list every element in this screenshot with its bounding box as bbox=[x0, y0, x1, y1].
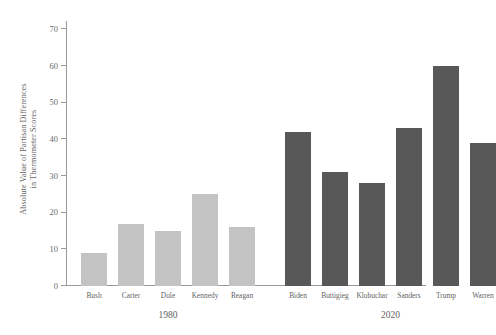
y-tick-60: 60 bbox=[61, 65, 66, 66]
plot-area: 010203040506070 BushCarterDoleKennedyRea… bbox=[66, 21, 426, 286]
y-tick-50: 50 bbox=[61, 102, 66, 103]
bar-label-biden: Biden bbox=[289, 291, 307, 300]
y-tick-20: 20 bbox=[61, 212, 66, 213]
y-tick-10: 10 bbox=[61, 248, 66, 249]
y-axis-title: Absolute Value of Partisan Differences i… bbox=[14, 6, 44, 292]
bar-label-reagan: Reagan bbox=[231, 291, 253, 300]
bar-buttigieg: Buttigieg bbox=[322, 172, 348, 286]
bar-biden: Biden bbox=[285, 132, 311, 286]
y-tick-label: 60 bbox=[50, 61, 59, 71]
bar-label-klobuchar: Klobuchar bbox=[356, 291, 387, 300]
bar-trump: Trump bbox=[433, 66, 459, 286]
bar-label-bush: Bush bbox=[86, 291, 101, 300]
bar-label-sanders: Sanders bbox=[397, 291, 420, 300]
y-tick-70: 70 bbox=[61, 28, 66, 29]
group-label-1980: 1980 bbox=[159, 310, 178, 320]
bar-klobuchar: Klobuchar bbox=[359, 183, 385, 286]
y-tick-label: 10 bbox=[50, 244, 59, 254]
bar-carter: Carter bbox=[118, 224, 144, 286]
y-tick-label: 30 bbox=[50, 171, 59, 181]
bar-bush: Bush bbox=[81, 253, 107, 286]
group-label-2020: 2020 bbox=[381, 310, 400, 320]
y-tick-label: 50 bbox=[50, 97, 59, 107]
bar-label-buttigieg: Buttigieg bbox=[321, 291, 349, 300]
bar-sanders: Sanders bbox=[396, 128, 422, 286]
bar-label-kennedy: Kennedy bbox=[192, 291, 219, 300]
y-tick-label: 40 bbox=[50, 134, 59, 144]
bar-label-carter: Carter bbox=[122, 291, 140, 300]
bar-kennedy: Kennedy bbox=[192, 194, 218, 286]
y-axis-line bbox=[66, 21, 67, 286]
y-tick-label: 70 bbox=[50, 24, 59, 34]
y-tick-label: 20 bbox=[50, 207, 59, 217]
bar-label-warren: Warren bbox=[472, 291, 494, 300]
bar-reagan: Reagan bbox=[229, 227, 255, 286]
bar-dole: Dole bbox=[155, 231, 181, 286]
y-tick-30: 30 bbox=[61, 175, 66, 176]
bar-label-dole: Dole bbox=[161, 291, 175, 300]
y-tick-label: 0 bbox=[54, 281, 58, 291]
y-tick-40: 40 bbox=[61, 138, 66, 139]
bar-label-trump: Trump bbox=[436, 291, 456, 300]
bar-warren: Warren bbox=[470, 143, 496, 286]
y-tick-0: 0 bbox=[61, 285, 66, 286]
